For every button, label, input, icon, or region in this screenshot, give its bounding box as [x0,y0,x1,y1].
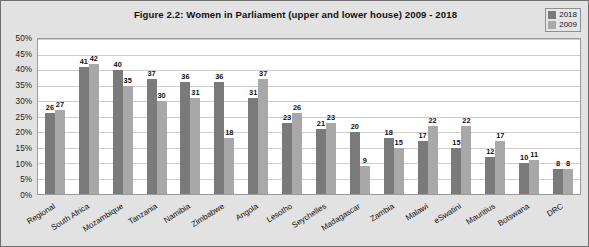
bar-value-label: 26 [293,103,301,112]
bar: 30 [157,101,167,194]
bar: 11 [529,160,539,194]
x-axis-tick-label: DRC [545,202,564,219]
bar: 22 [428,126,438,194]
figure-container: Figure 2.2: Women in Parliament (upper a… [0,0,589,247]
bar-value-label: 8 [566,159,570,168]
y-axis-tick-label: 30% [16,96,32,105]
bar: 18 [224,138,234,194]
bar: 21 [316,129,326,194]
bar-value-label: 41 [80,57,88,66]
bar-group: 1815 [377,39,411,194]
bar-value-label: 21 [317,119,325,128]
bar-value-label: 30 [157,91,165,100]
bar-value-label: 17 [418,131,426,140]
bar: 36 [180,82,190,194]
x-axis: RegionalSouth AfricaMozambiqueTanzaniaNa… [38,196,580,247]
bar: 8 [563,169,573,194]
bar: 23 [326,123,336,194]
bar-value-label: 8 [556,159,560,168]
legend-swatch-icon [548,11,556,19]
bar-value-label: 10 [520,153,528,162]
bar-group: 1217 [478,39,512,194]
bar: 23 [282,123,292,194]
bar: 20 [350,132,360,194]
bar-value-label: 36 [181,72,189,81]
bar: 42 [89,64,99,194]
bar-value-label: 42 [90,54,98,63]
bar-value-label: 37 [147,69,155,78]
x-axis-category: Zimbabwe [207,196,241,247]
page-title: Figure 2.2: Women in Parliament (upper a… [1,9,589,20]
x-axis-category: DRC [546,196,580,247]
y-axis-tick-label: 25% [16,112,32,121]
y-axis-tick-label: 0% [20,191,32,200]
bar: 22 [461,126,471,194]
legend-swatch-icon [548,21,556,29]
bar-value-label: 27 [56,100,64,109]
bar-value-label: 18 [385,128,393,137]
y-axis-tick-label: 45% [16,49,32,58]
y-axis-tick-label: 5% [20,175,32,184]
bar-group: 1522 [445,39,479,194]
bar: 10 [519,163,529,194]
y-axis-tick-label: 40% [16,65,32,74]
bar-group: 2123 [309,39,343,194]
bar: 40 [113,70,123,194]
bar-value-label: 31 [249,88,257,97]
bar-group: 1011 [512,39,546,194]
bar: 9 [360,166,370,194]
bar-group: 4035 [106,39,140,194]
y-axis-tick-label: 50% [16,34,32,43]
x-axis-category: Botswana [512,196,546,247]
bar: 26 [292,113,302,194]
y-axis-tick-label: 35% [16,81,32,90]
bar-value-label: 18 [225,128,233,137]
bar: 18 [384,138,394,194]
bar-value-label: 40 [114,60,122,69]
bar: 8 [553,169,563,194]
y-axis: 0%5%10%15%20%25%30%35%40%45%50% [1,38,34,195]
bar-value-label: 22 [462,116,470,125]
bar-group: 3631 [174,39,208,194]
y-axis-tick-label: 20% [16,128,32,137]
bar-value-label: 22 [428,116,436,125]
bar-group: 3730 [140,39,174,194]
legend-item: 2018 [548,10,577,19]
bar: 15 [451,148,461,195]
bar-value-label: 35 [124,76,132,85]
bar-group: 4142 [72,39,106,194]
y-axis-tick-label: 15% [16,143,32,152]
bar: 17 [495,141,505,194]
legend-label: 2018 [559,10,577,19]
bar-value-label: 15 [395,138,403,147]
bar-value-label: 9 [363,156,367,165]
bar: 37 [147,79,157,194]
bar-value-label: 12 [486,147,494,156]
bar: 12 [485,157,495,194]
bar-group: 88 [546,39,580,194]
bar-value-label: 23 [283,113,291,122]
bar: 17 [418,141,428,194]
bar: 26 [45,113,55,194]
bar-value-label: 31 [191,88,199,97]
bar-group: 2326 [275,39,309,194]
bar-group: 209 [343,39,377,194]
bar: 37 [258,79,268,194]
bar-group: 2627 [38,39,72,194]
bar-group: 1722 [411,39,445,194]
bar-group: 3137 [241,39,275,194]
bar-value-label: 15 [452,138,460,147]
bar: 31 [248,98,258,194]
bar: 27 [55,110,65,194]
bar-group: 3618 [207,39,241,194]
bar: 41 [79,67,89,194]
chart-legend: 20182009 [545,8,581,32]
bar-value-label: 23 [327,113,335,122]
bar-value-label: 20 [351,122,359,131]
bar: 36 [214,82,224,194]
bar-series-layer: 2627414240353730363136183137232621232091… [38,39,580,194]
bar-value-label: 11 [530,150,538,159]
x-axis-category: Zambia [377,196,411,247]
legend-item: 2009 [548,20,577,29]
bar: 31 [190,98,200,194]
